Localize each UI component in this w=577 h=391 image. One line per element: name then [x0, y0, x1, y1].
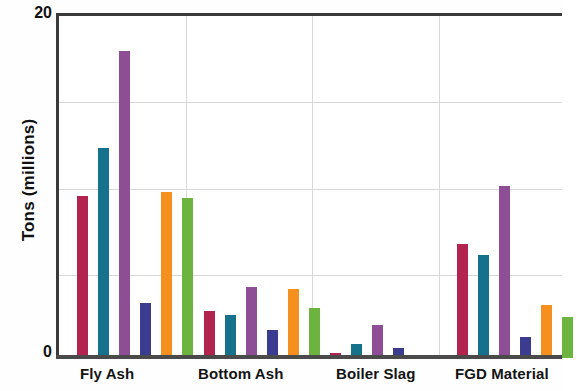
bar: [161, 192, 172, 358]
bar: [204, 311, 215, 358]
bar: [267, 330, 278, 358]
bar: [457, 244, 468, 358]
bar-group: [186, 16, 313, 358]
bar: [499, 186, 510, 359]
bar-group-bars: [312, 16, 457, 358]
x-axis-label-boiler-slag: Boiler Slag: [336, 365, 415, 382]
bar: [140, 303, 151, 358]
plot-inner: [59, 16, 562, 358]
x-axis-label-fly-ash: Fly Ash: [80, 365, 134, 382]
bar: [119, 51, 130, 358]
bar-group: [312, 16, 439, 358]
bar-group: [59, 16, 186, 358]
bar: [98, 148, 109, 358]
bar-group-bars: [439, 16, 577, 358]
bar: [372, 325, 383, 358]
x-axis-baseline: [56, 355, 562, 359]
x-axis-label-fgd-material: FGD Material: [455, 365, 549, 382]
bar-group-bars: [186, 16, 331, 358]
bar: [478, 255, 489, 359]
y-axis-tick-zero: 0: [4, 343, 52, 361]
bar-group: [439, 16, 566, 358]
bar: [246, 287, 257, 358]
bar: [541, 305, 552, 358]
bar: [77, 196, 88, 358]
bar-group-bars: [59, 16, 204, 358]
bar: [288, 289, 299, 358]
y-axis-title: Tons (millions): [19, 65, 39, 295]
x-axis-label-bottom-ash: Bottom Ash: [198, 365, 283, 382]
bar: [562, 317, 573, 358]
plot-area: [56, 13, 562, 358]
y-axis-tick-top: 20: [4, 4, 52, 22]
bar: [225, 315, 236, 358]
